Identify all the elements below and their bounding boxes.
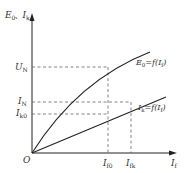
x-axis-label: If	[170, 158, 178, 169]
x-axis	[32, 151, 177, 156]
e0-curve-label: E0=f(If)	[135, 58, 166, 68]
origin-label: O	[23, 155, 31, 165]
y-axis-label: E0、Ik	[4, 10, 30, 21]
un-label: UN	[15, 62, 28, 73]
ik0-label: Ik0	[15, 108, 27, 119]
ifk-label: Ifk	[125, 158, 136, 169]
characteristic-diagram: E0、Ik If O UN IN Ik0 If0 Ifk E0=f(If) Ik…	[0, 0, 185, 173]
ik-line-label: Ik=f(If)	[137, 103, 166, 113]
in-label: IN	[17, 96, 27, 107]
if0-label: If0	[102, 158, 113, 169]
y-axis	[30, 13, 35, 153]
